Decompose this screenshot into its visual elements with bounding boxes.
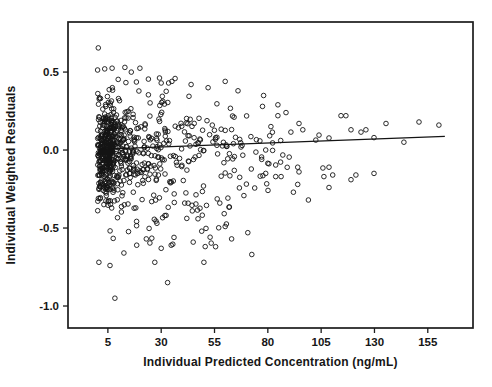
data-point	[179, 147, 184, 152]
x-axis-title: Individual Predicted Concentration (ng/m…	[68, 355, 473, 369]
data-point	[158, 162, 163, 167]
data-point	[317, 133, 322, 138]
data-point	[279, 174, 284, 179]
data-point	[349, 128, 354, 133]
data-point	[203, 244, 208, 249]
data-point	[327, 165, 332, 170]
data-point	[191, 240, 196, 245]
data-point	[126, 139, 131, 144]
data-point	[200, 128, 205, 133]
x-tick-label: 80	[261, 336, 274, 348]
data-point	[276, 113, 281, 118]
data-point	[200, 213, 205, 218]
data-point	[95, 208, 100, 213]
data-point	[222, 211, 227, 216]
data-point	[179, 121, 184, 126]
data-point	[113, 296, 118, 301]
x-tick-label: 130	[365, 336, 384, 348]
data-point	[147, 226, 152, 231]
data-point	[138, 66, 143, 71]
data-point	[160, 94, 165, 99]
data-point	[185, 168, 190, 173]
data-point	[194, 193, 199, 198]
data-point	[116, 77, 121, 82]
data-point	[146, 93, 151, 98]
data-point	[232, 168, 237, 173]
data-point	[228, 106, 233, 111]
data-point	[115, 198, 120, 203]
data-point	[354, 173, 359, 178]
data-point	[204, 203, 209, 208]
data-point	[163, 172, 168, 177]
data-point	[129, 70, 134, 75]
data-point	[136, 182, 141, 187]
data-point	[384, 121, 389, 126]
x-tick-label: 105	[312, 336, 332, 348]
data-point	[219, 174, 224, 179]
data-point	[120, 194, 125, 199]
x-tick-label: 5	[105, 336, 112, 348]
data-point	[322, 174, 327, 179]
data-point	[215, 102, 220, 107]
data-point	[158, 167, 163, 172]
data-point	[241, 153, 246, 158]
data-point	[207, 132, 212, 137]
data-point	[96, 102, 101, 107]
data-point	[159, 246, 164, 251]
data-point	[228, 174, 233, 179]
data-point	[229, 127, 234, 132]
data-point	[278, 160, 283, 165]
data-point	[295, 182, 300, 187]
data-point	[172, 200, 177, 205]
data-point	[148, 241, 153, 246]
y-tick-label: -1.0	[39, 300, 59, 312]
data-point	[417, 120, 422, 125]
data-point	[166, 205, 171, 210]
data-point	[185, 216, 190, 221]
data-point	[115, 215, 120, 220]
data-point	[96, 46, 101, 51]
data-point	[157, 76, 162, 81]
data-point	[364, 128, 369, 133]
data-point	[402, 140, 407, 145]
data-point	[210, 123, 215, 128]
data-point	[236, 89, 241, 94]
data-point	[216, 226, 221, 231]
data-point	[153, 260, 158, 265]
data-point	[270, 130, 275, 135]
data-point	[183, 139, 188, 144]
data-point	[237, 175, 242, 180]
data-point	[249, 167, 254, 172]
data-point	[297, 121, 302, 126]
data-point	[105, 94, 110, 99]
data-point	[140, 197, 145, 202]
data-point	[276, 103, 281, 108]
data-point	[250, 252, 255, 257]
data-point	[182, 130, 187, 135]
data-point	[270, 148, 275, 153]
data-point	[222, 160, 227, 165]
data-point	[101, 107, 106, 112]
data-point	[141, 181, 146, 186]
data-point	[172, 192, 177, 197]
data-point	[122, 251, 127, 256]
data-point	[244, 182, 249, 187]
data-point	[301, 128, 306, 133]
data-point	[127, 180, 132, 185]
data-point	[165, 280, 170, 285]
data-point	[223, 171, 228, 176]
data-point	[306, 198, 311, 203]
x-tick-label: 55	[208, 336, 221, 348]
data-point	[261, 93, 266, 98]
data-point	[242, 193, 247, 198]
data-point	[108, 229, 113, 234]
data-point	[212, 128, 217, 133]
data-point	[246, 230, 251, 235]
data-point	[131, 115, 136, 120]
data-point	[98, 129, 103, 134]
data-point	[144, 237, 149, 242]
data-point	[200, 189, 205, 194]
data-point	[273, 163, 278, 168]
data-point	[215, 152, 220, 157]
data-point	[287, 155, 292, 160]
